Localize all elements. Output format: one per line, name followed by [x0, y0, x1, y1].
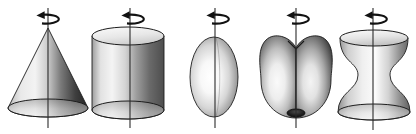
cylinder-top-ellipse — [92, 27, 164, 45]
shape-cone — [8, 8, 88, 128]
cylinder-rotation-arrow-icon — [121, 11, 143, 23]
dimpled-spheroid-left-lobe — [260, 36, 296, 118]
shape-hyperboloid — [338, 8, 410, 130]
ellipsoid-rotation-arrow-icon — [206, 11, 228, 23]
hyperboloid-bottom-ellipse — [338, 104, 410, 120]
shape-dimpled-spheroid — [260, 8, 333, 128]
shape-cylinder — [92, 8, 164, 128]
surfaces-of-revolution-figure — [0, 0, 416, 134]
cylinder-bottom-ellipse — [92, 101, 164, 119]
hyperboloid-rotation-arrow-icon — [364, 11, 386, 23]
shape-ellipsoid — [190, 8, 238, 128]
figure-canvas: Surfaces of Revolution Cone Cylinder Ell… — [0, 0, 416, 134]
dimpled-spheroid-right-lobe — [296, 36, 332, 118]
ellipsoid-body — [190, 37, 238, 117]
hyperboloid-top-ellipse — [340, 30, 408, 46]
dimpled-spheroid-rotation-arrow-icon — [286, 11, 308, 23]
